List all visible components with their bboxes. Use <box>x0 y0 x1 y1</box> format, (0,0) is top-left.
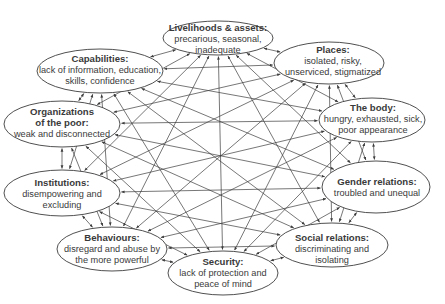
node-title: Livelihoods & assets: <box>169 22 268 33</box>
node-gender-relations: Gender relations: troubled and unequal <box>322 161 430 213</box>
nodes-layer: Livelihoods & assets: precarious, season… <box>4 21 430 295</box>
connector-arrow-gender-social <box>349 213 357 223</box>
connector-arrow-social-security <box>271 257 284 260</box>
node-behaviours: Behaviours: disregard and abuse by the m… <box>57 227 167 271</box>
node-title: Behaviours: <box>84 232 139 243</box>
node-desc-line: disempowering and <box>22 189 102 199</box>
node-desc-line: discriminating and <box>295 244 369 254</box>
connector-arrow-body-behaviours <box>148 138 337 232</box>
node-desc-line: isolating <box>315 255 349 265</box>
node-title: Institutions: <box>35 177 90 188</box>
connector-arrow-behaviours-institutions <box>82 216 92 227</box>
node-desc-line: skills, confidence <box>65 76 134 86</box>
connector-arrow-places-body <box>345 84 355 97</box>
node-title: Social relations: <box>295 232 369 243</box>
node-title: The body: <box>350 102 396 113</box>
poverty-dimensions-diagram: Livelihoods & assets: precarious, season… <box>0 0 445 304</box>
connector-arrow-social-organizations <box>102 142 294 228</box>
node-desc-line: inadequate <box>195 45 240 55</box>
connector-arrow-gender-capabilities <box>142 89 334 170</box>
node-desc-line: poor appearance <box>338 125 407 135</box>
node-places: Places: isolated, risky, unserviced, sti… <box>274 42 384 84</box>
node-title: Organizations <box>30 106 94 117</box>
node-desc-line: isolated, risky, <box>304 56 362 66</box>
diagram-canvas: Livelihoods & assets: precarious, season… <box>0 0 445 304</box>
node-security: Security: lack of protection and peace o… <box>168 251 278 295</box>
connector-arrow-organizations-capabilities <box>79 94 84 101</box>
connector-arrow-body-gender <box>373 144 374 160</box>
node-title-line2: of the poor: <box>35 117 88 128</box>
node-capabilities: Capabilities: lack of information, educa… <box>37 49 163 93</box>
connector-arrow-livelihoods-places <box>264 48 280 52</box>
node-desc-line: peace of mind <box>194 279 252 289</box>
node-title: Capabilities: <box>71 53 128 64</box>
node-the-body: The body: hungry, exhausted, sick, poor … <box>319 98 425 142</box>
node-title: Security: <box>202 256 243 267</box>
node-title: Gender relations: <box>337 176 416 187</box>
node-organizations-of-the-poor: Organizations of the poor: weak and disc… <box>4 101 120 147</box>
node-desc-line: the more powerful <box>75 255 149 265</box>
connector-arrow-security-behaviours <box>162 260 173 262</box>
node-desc-line: lack of information, education, <box>39 65 161 75</box>
connector-arrow-social-capabilities <box>128 92 305 225</box>
node-institutions: Institutions: disempowering and excludin… <box>4 170 120 216</box>
node-livelihoods: Livelihoods & assets: precarious, season… <box>163 21 273 55</box>
connector-arrow-places-institutions <box>100 80 294 174</box>
node-desc-line: weak and disconnected <box>13 129 110 139</box>
connector-arrow-social-behaviours <box>168 246 274 248</box>
node-desc-line: disregard and abuse by <box>64 244 160 254</box>
connector-arrow-livelihoods-capabilities <box>151 50 176 57</box>
node-desc-line: hungry, exhausted, sick, <box>324 114 422 124</box>
node-desc-line: excluding <box>43 200 82 210</box>
node-ellipse <box>322 161 430 213</box>
node-social-relations: Social relations: discriminating and iso… <box>276 223 388 267</box>
connector-arrow-livelihoods-security <box>218 57 222 250</box>
node-desc-line: precarious, seasonal, <box>174 34 261 44</box>
node-desc-line: unserviced, stigmatized <box>285 67 381 77</box>
node-title: Places: <box>316 44 350 55</box>
node-desc-line: troubled and unequal <box>334 188 420 198</box>
node-desc-line: lack of protection and <box>179 268 266 278</box>
